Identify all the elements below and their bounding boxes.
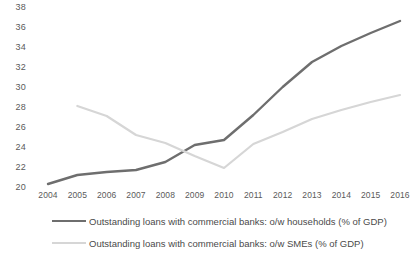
- y-axis-tick-label: 22: [16, 163, 26, 172]
- y-axis: 20222426283032343638: [0, 8, 28, 188]
- legend-item-households: Outstanding loans with commercial banks:…: [0, 210, 418, 232]
- y-axis-tick-label: 24: [16, 143, 26, 152]
- legend-item-smes: Outstanding loans with commercial banks:…: [0, 232, 418, 254]
- x-axis-tick-label: 2005: [68, 190, 87, 200]
- series-layer: [48, 21, 400, 184]
- y-axis-tick-label: 28: [16, 103, 26, 112]
- y-axis-tick-label: 34: [16, 43, 26, 52]
- y-axis-tick-label: 20: [16, 183, 26, 192]
- series-line-households: [48, 21, 400, 184]
- x-axis-tick-label: 2011: [244, 190, 263, 200]
- plot-area: [30, 8, 414, 188]
- x-axis-tick-label: 2015: [361, 190, 380, 200]
- y-axis-tick-label: 36: [16, 23, 26, 32]
- legend-label-smes: Outstanding loans with commercial banks:…: [89, 238, 364, 249]
- y-axis-tick-label: 38: [16, 3, 26, 12]
- x-axis-tick-label: 2008: [156, 190, 175, 200]
- x-axis-tick-label: 2014: [332, 190, 351, 200]
- x-axis-tick-label: 2009: [185, 190, 204, 200]
- y-axis-tick-label: 30: [16, 83, 26, 92]
- series-line-smes: [77, 95, 400, 168]
- y-axis-tick-label: 32: [16, 63, 26, 72]
- legend-line-swatch-smes: [52, 242, 86, 244]
- chart-legend: Outstanding loans with commercial banks:…: [0, 210, 418, 254]
- legend-label-households: Outstanding loans with commercial banks:…: [89, 216, 387, 227]
- x-axis-tick-label: 2012: [273, 190, 292, 200]
- y-axis-tick-label: 26: [16, 123, 26, 132]
- line-chart: 20222426283032343638 2004200520062007200…: [0, 0, 418, 264]
- x-axis-tick-label: 2016: [390, 190, 409, 200]
- legend-line-swatch-households: [52, 220, 86, 222]
- x-axis-tick-label: 2010: [214, 190, 233, 200]
- x-axis-tick-label: 2006: [97, 190, 116, 200]
- x-axis-tick-label: 2007: [126, 190, 145, 200]
- x-axis: 2004200520062007200820092010201120122013…: [30, 190, 414, 204]
- plot-svg: [30, 8, 414, 188]
- x-axis-tick-label: 2004: [38, 190, 57, 200]
- x-axis-tick-label: 2013: [302, 190, 321, 200]
